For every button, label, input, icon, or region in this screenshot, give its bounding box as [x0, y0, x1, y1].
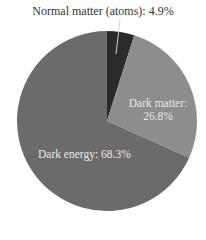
dark-energy-label: Dark energy: 68.3% — [38, 148, 138, 161]
dark-matter-label-text: Dark matter: — [118, 97, 198, 110]
dark-matter-label: Dark matter: 26.8% — [118, 97, 198, 123]
dark-matter-value: 26.8% — [118, 110, 198, 123]
